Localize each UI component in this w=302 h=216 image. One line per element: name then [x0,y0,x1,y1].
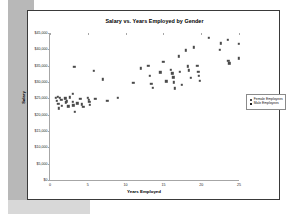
scatter-point [57,102,59,104]
scatter-point [73,65,75,67]
scatter-point [185,49,187,51]
scatter-point [173,81,175,83]
scatter-point [152,86,154,88]
scatter-point [74,111,76,113]
legend-label: Male Employees [254,102,279,105]
x-axis-label: Years Employed [49,189,239,194]
x-axis-tick-label: 20 [199,183,203,187]
scatter-point [102,78,104,80]
scatter-point [196,65,198,67]
y-axis-tick-label: $45,000 [35,31,48,35]
scatter-point [65,100,67,102]
slide-bottom-shadow [8,200,90,214]
y-axis-tick-label: $25,000 [35,96,48,100]
x-axis-tick-mark [201,33,202,35]
y-axis-tick-mark [48,49,50,50]
y-axis-tick-label: $30,000 [35,80,48,84]
scatter-point [60,98,62,100]
scatter-point [149,75,151,77]
scatter-point [188,69,190,71]
scatter-point [180,83,182,85]
scatter-point [219,49,221,51]
scatter-point [228,62,230,64]
scatter-point [220,42,222,44]
y-axis-tick-label: $40,000 [35,47,48,51]
scatter-point [71,100,73,102]
scatter-point [106,99,108,101]
scatter-point [174,87,176,89]
scatter-point [159,71,161,73]
y-axis-tick-label: $5,000 [37,162,48,166]
scatter-point [179,71,181,73]
scatter-point [192,46,194,48]
scatter-point [162,61,164,63]
scatter-point [76,102,78,104]
scatter-point [170,68,172,70]
x-axis-tick-mark [50,33,51,35]
x-axis-tick-mark [239,33,240,35]
scatter-point [150,82,152,84]
y-axis-tick-mark [48,66,50,67]
scatter-point [117,97,119,99]
x-axis-tick-label: 5 [87,183,89,187]
scatter-point [189,77,191,79]
y-axis-tick-mark [48,131,50,132]
plot-area[interactable]: $0$5,000$10,000$15,000$20,000$25,000$30,… [49,33,239,181]
x-axis-tick-label: 0 [49,183,51,187]
scatter-point [71,93,73,95]
scatter-point [197,71,199,73]
y-axis-tick-mark [48,164,50,165]
y-axis-tick-label: $15,000 [35,129,48,133]
scatter-point [171,72,173,74]
legend-item[interactable]: Male Employees [250,102,283,105]
legend-marker-icon [250,103,252,105]
scatter-point [79,98,81,100]
chart-title: Salary vs. Years Employed by Gender [28,18,281,24]
scatter-point [198,75,200,77]
x-axis-tick-label: 15 [161,183,165,187]
y-axis-tick-mark [48,180,50,181]
y-axis-tick-label: $10,000 [35,145,48,149]
scatter-point [140,67,142,69]
scatter-point [82,106,84,108]
y-axis-tick-label: $20,000 [35,113,48,117]
x-axis-tick-mark [126,33,127,35]
x-axis-tick-label: 25 [237,183,241,187]
scatter-point [94,97,96,99]
scatter-point [93,70,95,72]
scatter-point [61,105,63,107]
y-axis-tick-mark [48,82,50,83]
x-axis-tick-mark [88,33,89,35]
chart-legend[interactable]: Female EmployeesMale Employees [246,94,286,110]
scatter-point [226,39,228,41]
y-axis-tick-mark [48,98,50,99]
y-axis-tick-mark [48,115,50,116]
y-axis-label: Salary [21,91,26,104]
y-axis-tick-mark [48,147,50,148]
x-axis-tick-label: 10 [124,183,128,187]
x-axis-tick-mark [163,33,164,35]
y-axis-tick-label: $35,000 [35,64,48,68]
scatter-point [238,57,240,59]
scatter-point [58,107,60,109]
scatter-point [89,103,91,105]
scatter-point [172,76,174,78]
scatter-point [72,104,74,106]
scatter-point [238,43,240,45]
scatter-point [198,79,200,81]
scatter-point [68,96,70,98]
chart-container[interactable]: Salary vs. Years Employed by Gender Sala… [27,10,280,200]
scatter-point [132,82,134,84]
scatter-point [165,80,167,82]
scatter-point [186,65,188,67]
scatter-point [67,105,69,107]
scatter-point [177,55,179,57]
legend-marker-icon [250,99,252,101]
scatter-point [147,64,149,66]
scatter-point [208,37,210,39]
